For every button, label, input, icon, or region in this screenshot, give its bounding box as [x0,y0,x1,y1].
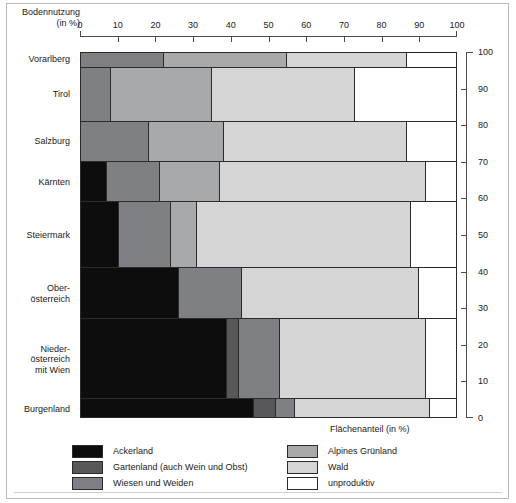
plot-area [80,52,457,418]
category-label-line: österreich [0,294,70,305]
right-axis-tick [461,89,467,90]
category-label-4: Steiermark [0,230,70,241]
legend-label: Gartenland (auch Wein und Obst) [113,462,247,473]
right-axis-tick [461,125,467,126]
top-axis-tick [80,31,81,37]
category-label-6: Nieder-österreichmit Wien [0,344,70,376]
legend-label: Wald [328,462,348,473]
category-label-line: österreich [0,354,70,365]
bar-segment [430,399,456,417]
bar-segment [280,319,426,399]
bar-segment [276,399,295,417]
chart-axis-title-top-line2: (in %) [18,18,80,29]
right-axis-tick-label: 80 [478,120,488,130]
bar-segment [197,202,411,268]
category-label-1: Tirol [0,89,70,100]
bar-1 [81,68,456,123]
bar-5 [81,268,456,319]
bar-segment [287,53,407,68]
bar-0 [81,53,456,68]
bar-segment [111,68,212,123]
bar-segment [242,268,418,319]
bar-segment [295,399,430,417]
bar-6 [81,319,456,399]
chart-axis-title-top: Bodennutzung (in %) [18,7,80,29]
bar-segment [81,53,164,68]
legend-label: unproduktiv [328,478,375,489]
right-axis-tick-label: 90 [478,84,488,94]
top-axis-tick [419,36,420,42]
category-label-0: Vorarlberg [0,54,70,65]
legend-swatch [287,477,318,490]
legend-swatch [72,461,103,474]
category-label-3: Kärnten [0,177,70,188]
bar-7 [81,399,456,417]
bar-segment [149,122,224,162]
bar-segment [220,162,426,202]
top-axis: 0102030405060708090100 [80,20,457,52]
category-label-line: Ober- [0,283,70,294]
top-axis-tick-label: 80 [377,20,387,30]
top-axis-tick-label: 40 [226,20,236,30]
legend: AckerlandGartenland (auch Wein und Obst)… [72,445,492,491]
bar-segment [81,162,107,202]
bar-segment [411,202,456,268]
bar-4 [81,202,456,268]
bar-segment [407,53,456,68]
bar-2 [81,122,456,162]
right-axis-tick [461,308,467,309]
category-label-line: Burgenland [0,404,70,415]
bar-segment [179,268,243,319]
bar-segment [426,162,456,202]
legend-label: Alpines Grünland [328,446,397,457]
top-axis-tick-label: 50 [263,20,273,30]
right-axis-tick-label: 70 [478,157,488,167]
right-axis-tick [461,345,467,346]
category-label-line: Vorarlberg [0,54,70,65]
bar-segment [426,319,456,399]
bar-segment [212,68,355,123]
bar-segment [160,162,220,202]
bar-segment [227,319,238,399]
right-axis-tick-label: 100 [478,47,493,57]
top-axis-tick-label: 70 [339,20,349,30]
bar-segment [224,122,408,162]
top-axis-tick [118,36,119,42]
bar-segment [81,399,254,417]
right-axis-tick [461,162,467,163]
top-axis-tick-label: 60 [301,20,311,30]
legend-swatch [287,445,318,458]
legend-swatch [287,461,318,474]
bar-3 [81,162,456,202]
category-label-line: Salzburg [0,136,70,147]
right-axis-tick-label: 40 [478,267,488,277]
legend-label: Wiesen und Weiden [113,478,193,489]
right-axis-tick [461,381,467,382]
top-axis-tick [456,31,457,37]
category-axis-labels: VorarlbergTirolSalzburgKärntenSteiermark… [0,52,76,418]
top-axis-tick-label: 100 [449,20,464,30]
right-axis-tick-label: 30 [478,303,488,313]
top-axis-tick-label: 0 [77,20,82,30]
top-axis-tick [344,36,345,42]
right-axis-tick [466,52,473,53]
bar-segment [355,68,456,123]
right-axis: 0102030405060708090100 [466,52,512,418]
chart-page: Bodennutzung (in %) 01020304050607080901… [0,0,516,503]
bar-segment [81,68,111,123]
chart-axis-title-top-line1: Bodennutzung [18,7,80,18]
top-axis-tick [382,36,383,42]
right-axis-tick [461,235,467,236]
top-axis-tick [193,36,194,42]
bar-segment [419,268,457,319]
right-axis-tick-label: 20 [478,340,488,350]
footer-divider [14,492,502,493]
category-label-line: Nieder- [0,344,70,355]
legend-label: Ackerland [113,446,153,457]
legend-swatch [72,477,103,490]
category-label-line: mit Wien [0,365,70,376]
right-axis-tick [461,198,467,199]
category-label-line: Kärnten [0,177,70,188]
top-axis-tick-label: 30 [188,20,198,30]
category-label-line: Steiermark [0,230,70,241]
